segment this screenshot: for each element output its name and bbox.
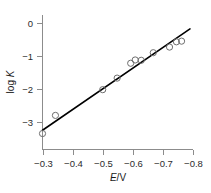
y-tick-label: −1	[22, 51, 33, 62]
data-point-marker	[52, 112, 58, 118]
data-point-marker	[132, 57, 138, 63]
x-tick-label: −0.8	[184, 158, 203, 169]
x-tick-label: −0.4	[64, 158, 83, 169]
y-axis-ticks: 0−1−2−3	[22, 18, 42, 128]
scatter-plot: 0−1−2−3 −0.3−0.4−0.5−0.6−0.7−0.8 E/V log…	[0, 0, 211, 193]
y-tick-label: −2	[22, 84, 33, 95]
x-tick-label: −0.6	[124, 158, 143, 169]
y-tick-label: 0	[28, 18, 33, 29]
x-tick-label: −0.3	[34, 158, 53, 169]
y-axis-title: log K	[5, 69, 16, 93]
x-tick-label: −0.5	[94, 158, 113, 169]
y-axis: 0−1−2−3	[22, 15, 42, 150]
x-tick-label: −0.7	[154, 158, 173, 169]
data-point-marker	[166, 44, 172, 50]
data-points	[39, 38, 184, 137]
x-axis-title: E/V	[110, 172, 126, 183]
x-axis-ticks: −0.3−0.4−0.5−0.6−0.7−0.8	[34, 150, 203, 169]
chart-figure: 0−1−2−3 −0.3−0.4−0.5−0.6−0.7−0.8 E/V log…	[0, 0, 211, 193]
y-tick-label: −3	[22, 117, 33, 128]
x-axis: −0.3−0.4−0.5−0.6−0.7−0.8	[34, 150, 203, 170]
